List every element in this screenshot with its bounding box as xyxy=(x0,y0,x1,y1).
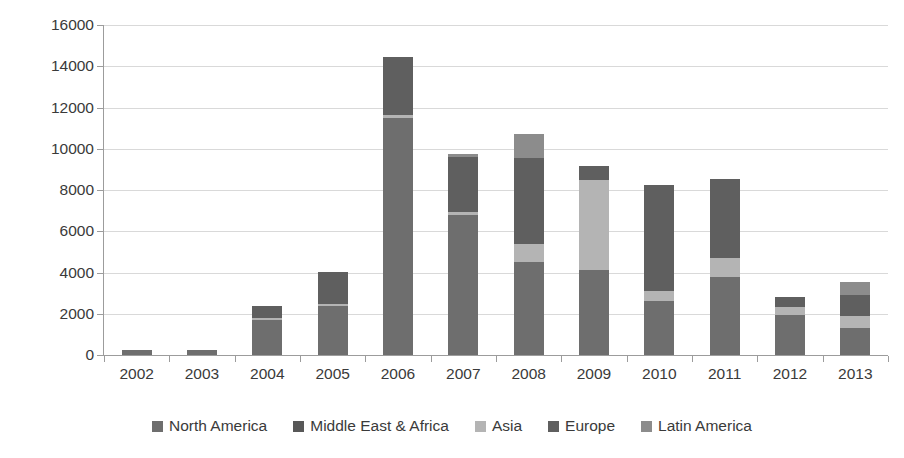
bar-segment-asia xyxy=(383,115,413,117)
bar-segment-north-america xyxy=(318,306,348,356)
x-axis-tick xyxy=(431,356,432,362)
bar-segment-north-america xyxy=(252,320,282,355)
bar-segment-asia xyxy=(710,258,740,277)
bar-segment-europe xyxy=(775,297,805,306)
bar-2009 xyxy=(579,25,609,355)
x-axis-tick-label-2008: 2008 xyxy=(496,366,561,382)
legend-swatch-icon xyxy=(293,421,304,432)
x-axis-tick-label-2010: 2010 xyxy=(627,366,692,382)
bar-2013 xyxy=(840,25,870,355)
gridline xyxy=(104,273,888,274)
legend-item-middle-east-africa[interactable]: Middle East & Africa xyxy=(293,418,449,434)
bar-segment-europe xyxy=(579,166,609,179)
legend-swatch-icon xyxy=(475,421,486,432)
bar-segment-north-america xyxy=(579,270,609,355)
legend-label: Asia xyxy=(492,418,522,434)
bar-segment-asia xyxy=(252,318,282,320)
x-axis-tick-label-2006: 2006 xyxy=(365,366,430,382)
bar-segment-europe xyxy=(383,57,413,115)
legend-label: Latin America xyxy=(658,418,752,434)
x-axis-tick xyxy=(365,356,366,362)
page-edge xyxy=(0,448,904,458)
bar-segment-europe xyxy=(840,295,870,316)
bar-segment-asia xyxy=(775,307,805,315)
legend-item-north-america[interactable]: North America xyxy=(152,418,267,434)
x-axis-tick xyxy=(104,356,105,362)
y-axis-tick-label: 0 xyxy=(8,347,94,363)
gridline xyxy=(104,190,888,191)
x-axis-tick-label-2013: 2013 xyxy=(823,366,888,382)
bar-2011 xyxy=(710,25,740,355)
legend-label: Europe xyxy=(565,418,615,434)
legend-swatch-icon xyxy=(548,421,559,432)
y-axis-tick xyxy=(97,273,103,274)
gridline xyxy=(104,108,888,109)
plot-area xyxy=(104,25,888,355)
bar-segment-asia xyxy=(840,316,870,328)
bar-segment-north-america xyxy=(448,215,478,355)
x-axis-tick xyxy=(757,356,758,362)
y-axis-tick xyxy=(97,25,103,26)
x-axis-tick xyxy=(627,356,628,362)
y-axis-tick xyxy=(97,355,103,356)
bar-2003 xyxy=(187,25,217,355)
legend-label: Middle East & Africa xyxy=(310,418,449,434)
x-axis-tick-label-2012: 2012 xyxy=(757,366,822,382)
bar-2012 xyxy=(775,25,805,355)
bar-segment-north-america xyxy=(187,350,217,355)
bar-segment-north-america xyxy=(710,277,740,355)
legend-item-latin-america[interactable]: Latin America xyxy=(641,418,752,434)
chart-legend: North AmericaMiddle East & AfricaAsiaEur… xyxy=(0,412,904,440)
bar-2008 xyxy=(514,25,544,355)
y-axis-tick-label: 10000 xyxy=(8,141,94,157)
x-axis-tick-label-2004: 2004 xyxy=(235,366,300,382)
y-axis-labels: 1600014000120001000080006000400020000 xyxy=(0,0,94,458)
y-axis-tick-label: 14000 xyxy=(8,58,94,74)
bar-2004 xyxy=(252,25,282,355)
y-axis-tick-label: 16000 xyxy=(8,17,94,33)
x-axis-tick xyxy=(823,356,824,362)
bar-2002 xyxy=(122,25,152,355)
x-axis-tick xyxy=(169,356,170,362)
y-axis-tick-label: 12000 xyxy=(8,100,94,116)
bar-segment-north-america xyxy=(122,350,152,355)
bar-segment-north-america xyxy=(840,328,870,355)
bar-segment-europe xyxy=(710,179,740,258)
bar-segment-north-america xyxy=(383,118,413,355)
x-axis-tick-label-2005: 2005 xyxy=(300,366,365,382)
y-axis-tick xyxy=(97,314,103,315)
x-axis-tick xyxy=(235,356,236,362)
bar-2010 xyxy=(644,25,674,355)
y-axis-tick-label: 2000 xyxy=(8,306,94,322)
bar-segment-asia xyxy=(318,304,348,306)
bar-segment-north-america xyxy=(644,301,674,355)
x-axis-tick xyxy=(692,356,693,362)
bar-segment-europe xyxy=(448,157,478,212)
bar-segment-asia xyxy=(448,212,478,215)
stacked-bar-chart: 1600014000120001000080006000400020000 20… xyxy=(0,0,904,458)
gridline xyxy=(104,314,888,315)
y-axis-tick xyxy=(97,149,103,150)
x-axis-tick-label-2009: 2009 xyxy=(561,366,626,382)
bar-segment-asia xyxy=(644,291,674,301)
x-axis-tick-label-2011: 2011 xyxy=(692,366,757,382)
gridline xyxy=(104,149,888,150)
bar-2006 xyxy=(383,25,413,355)
legend-swatch-icon xyxy=(641,421,652,432)
x-axis-tick-label-2007: 2007 xyxy=(431,366,496,382)
x-axis-tick-label-2003: 2003 xyxy=(169,366,234,382)
gridline xyxy=(104,66,888,67)
bar-segment-europe xyxy=(644,185,674,292)
bar-segment-latin-america xyxy=(840,282,870,295)
y-axis-tick xyxy=(97,108,103,109)
bar-segment-north-america xyxy=(514,262,544,355)
bar-segment-asia xyxy=(579,180,609,271)
bar-segment-europe xyxy=(514,158,544,244)
y-axis-tick-label: 6000 xyxy=(8,223,94,239)
x-axis-tick xyxy=(561,356,562,362)
gridline xyxy=(104,25,888,26)
bar-segment-latin-america xyxy=(514,134,544,158)
legend-item-europe[interactable]: Europe xyxy=(548,418,615,434)
y-axis-tick xyxy=(97,190,103,191)
legend-item-asia[interactable]: Asia xyxy=(475,418,522,434)
